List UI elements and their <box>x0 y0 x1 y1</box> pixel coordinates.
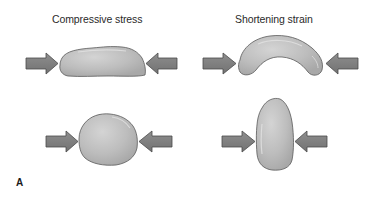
flattened-blob-group <box>26 47 177 77</box>
panel-label: A <box>16 177 23 188</box>
arrow-right-icon <box>26 53 58 74</box>
arrow-left-icon <box>295 131 327 152</box>
round-blob-shape <box>79 114 137 165</box>
arrow-right-icon <box>203 53 236 74</box>
tall-blob-group <box>222 98 327 170</box>
arched-blob-group <box>203 36 358 76</box>
arrow-left-icon <box>326 53 358 74</box>
flattened-blob-shape <box>60 47 146 77</box>
round-blob-group <box>46 114 172 165</box>
arrow-right-icon <box>222 131 255 152</box>
figure-canvas: Compressive stress Shortening strain <box>0 0 371 211</box>
tall-blob-shape <box>256 98 293 170</box>
arrow-left-icon <box>146 53 177 74</box>
arrow-left-icon <box>139 131 172 152</box>
arched-blob-shape <box>239 36 323 76</box>
diagram-artwork <box>0 0 371 211</box>
arrow-right-icon <box>46 131 78 152</box>
